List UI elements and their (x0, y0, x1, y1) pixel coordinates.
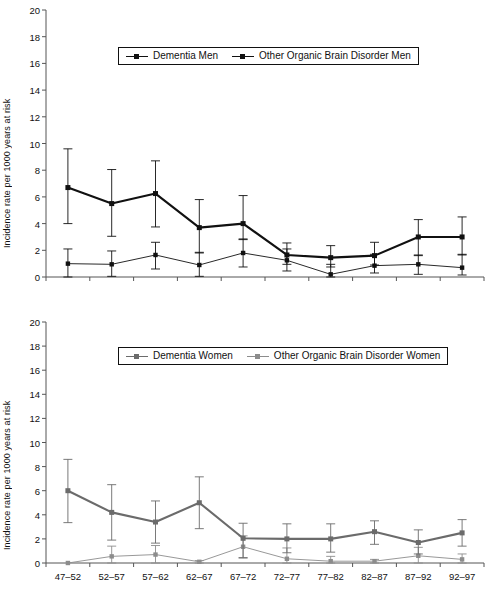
chart-panel-women: Incidence rate per 1000 years at risk De… (0, 300, 491, 596)
data-point-marker (110, 262, 114, 266)
legend-marker-other-organic-men (232, 52, 254, 61)
data-point-marker (153, 552, 157, 556)
data-point-marker (241, 536, 246, 541)
x-tick-label: 57–62 (142, 571, 168, 582)
data-point-marker (285, 557, 289, 561)
data-line (68, 547, 462, 563)
data-point-marker (197, 225, 202, 230)
y-tick-label: 4 (18, 509, 40, 520)
series-primary (63, 459, 466, 557)
data-point-marker (329, 272, 333, 276)
y-tick-label: 4 (18, 218, 40, 229)
data-point-marker (460, 530, 465, 535)
data-point-marker (109, 201, 114, 206)
y-tick-label: 0 (18, 272, 40, 283)
y-tick-label: 10 (18, 437, 40, 448)
x-tick-label: 52–57 (98, 571, 124, 582)
y-tick-label: 18 (18, 31, 40, 42)
legend-label-other-organic-men: Other Organic Brain Disorder Men (259, 51, 411, 61)
y-tick-label: 14 (18, 85, 40, 96)
data-point-marker (284, 252, 289, 257)
data-point-marker (372, 253, 377, 258)
plot-area-men (0, 0, 491, 300)
data-point-marker (66, 561, 70, 565)
data-point-marker (197, 560, 201, 564)
legend-label-dementia-men: Dementia Men (153, 51, 218, 61)
data-point-marker (328, 536, 333, 541)
data-point-marker (416, 262, 420, 266)
x-tick-label: 67–72 (230, 571, 256, 582)
data-point-marker (197, 500, 202, 505)
y-tick-label: 2 (18, 533, 40, 544)
x-tick-label: 47–52 (55, 571, 81, 582)
data-point-marker (416, 234, 421, 239)
y-tick-label: 20 (18, 5, 40, 16)
legend-men: Dementia Men Other Organic Brain Disorde… (118, 47, 419, 65)
data-point-marker (65, 185, 70, 190)
legend-women: Dementia Women Other Organic Brain Disor… (118, 347, 448, 365)
y-tick-label: 8 (18, 165, 40, 176)
y-tick-label: 18 (18, 341, 40, 352)
legend-marker-other-organic-women (247, 352, 269, 361)
data-point-marker (416, 540, 421, 545)
figure-incidence-rates: Incidence rate per 1000 years at risk De… (0, 0, 491, 596)
y-tick-label: 6 (18, 191, 40, 202)
series-secondary (63, 239, 466, 277)
y-tick-label: 12 (18, 111, 40, 122)
data-point-marker (460, 234, 465, 239)
data-point-marker (241, 251, 245, 255)
data-point-marker (460, 265, 464, 269)
data-point-marker (328, 255, 333, 260)
data-line (68, 491, 462, 543)
y-tick-label: 20 (18, 317, 40, 328)
y-tick-label: 16 (18, 58, 40, 69)
data-point-marker (372, 559, 376, 563)
legend-entry-dementia-men[interactable]: Dementia Men (126, 51, 218, 61)
legend-entry-other-organic-women[interactable]: Other Organic Brain Disorder Women (247, 351, 441, 361)
data-line (68, 188, 462, 258)
data-point-marker (153, 520, 158, 525)
legend-marker-dementia-women (126, 352, 148, 361)
data-point-marker (110, 554, 114, 558)
data-point-marker (109, 510, 114, 515)
series-primary (63, 149, 466, 267)
x-tick-label: 87–92 (405, 571, 431, 582)
plot-area-women (0, 300, 491, 596)
y-tick-label: 16 (18, 365, 40, 376)
x-tick-label: 82–87 (361, 571, 387, 582)
data-line (68, 253, 462, 274)
x-tick-label: 77–82 (317, 571, 343, 582)
data-point-marker (284, 536, 289, 541)
data-point-marker (329, 559, 333, 563)
data-point-marker (65, 488, 70, 493)
legend-label-other-organic-women: Other Organic Brain Disorder Women (274, 351, 441, 361)
y-tick-label: 10 (18, 138, 40, 149)
y-tick-label: 14 (18, 389, 40, 400)
legend-marker-dementia-men (126, 52, 148, 61)
x-tick-label: 62–67 (186, 571, 212, 582)
x-tick-label: 92–97 (449, 571, 475, 582)
y-tick-label: 6 (18, 485, 40, 496)
data-point-marker (241, 221, 246, 226)
y-tick-label: 8 (18, 461, 40, 472)
chart-panel-men: Incidence rate per 1000 years at risk De… (0, 0, 491, 300)
legend-entry-other-organic-men[interactable]: Other Organic Brain Disorder Men (232, 51, 411, 61)
data-point-marker (153, 253, 157, 257)
data-point-marker (153, 191, 158, 196)
data-point-marker (372, 529, 377, 534)
y-tick-label: 0 (18, 558, 40, 569)
data-point-marker (66, 261, 70, 265)
x-tick-label: 72–77 (274, 571, 300, 582)
y-tick-label: 2 (18, 245, 40, 256)
data-point-marker (460, 557, 464, 561)
legend-label-dementia-women: Dementia Women (153, 351, 233, 361)
y-tick-label: 12 (18, 413, 40, 424)
data-point-marker (197, 263, 201, 267)
legend-entry-dementia-women[interactable]: Dementia Women (126, 351, 233, 361)
